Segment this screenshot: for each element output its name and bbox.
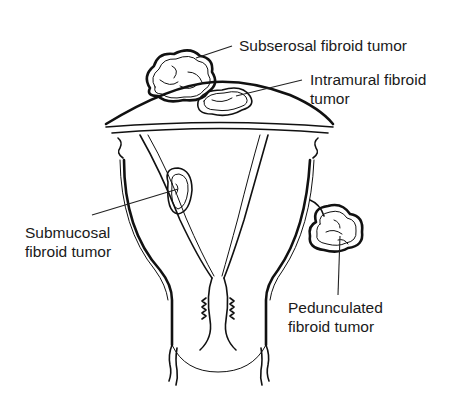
label-subserosal: Subserosal fibroid tumor	[239, 36, 407, 55]
uterus-illustration	[0, 0, 467, 413]
label-submucosal-line2: fibroid tumor	[25, 242, 111, 261]
label-pedunculated-line1: Pedunculated	[288, 298, 383, 317]
leader-submucosal	[92, 189, 178, 215]
label-intramural-line2: tumor	[310, 89, 426, 108]
label-submucosal: Submucosal fibroid tumor	[25, 223, 111, 261]
label-pedunculated: Pedunculated fibroid tumor	[288, 298, 383, 336]
label-subserosal-line1: Subserosal fibroid tumor	[239, 36, 407, 55]
pedunculated-fibroid	[310, 200, 363, 252]
label-intramural-line1: Intramural fibroid	[310, 70, 426, 89]
uterine-cavity	[140, 135, 268, 372]
intramural-fibroid	[198, 88, 252, 115]
cervix	[169, 345, 269, 385]
uterine-wall-left	[118, 138, 172, 345]
label-submucosal-line1: Submucosal	[25, 223, 111, 242]
label-intramural: Intramural fibroid tumor	[310, 70, 426, 108]
leader-subserosal	[196, 46, 232, 58]
diagram-canvas: Subserosal fibroid tumor Intramural fibr…	[0, 0, 467, 413]
label-pedunculated-line2: fibroid tumor	[288, 317, 383, 336]
